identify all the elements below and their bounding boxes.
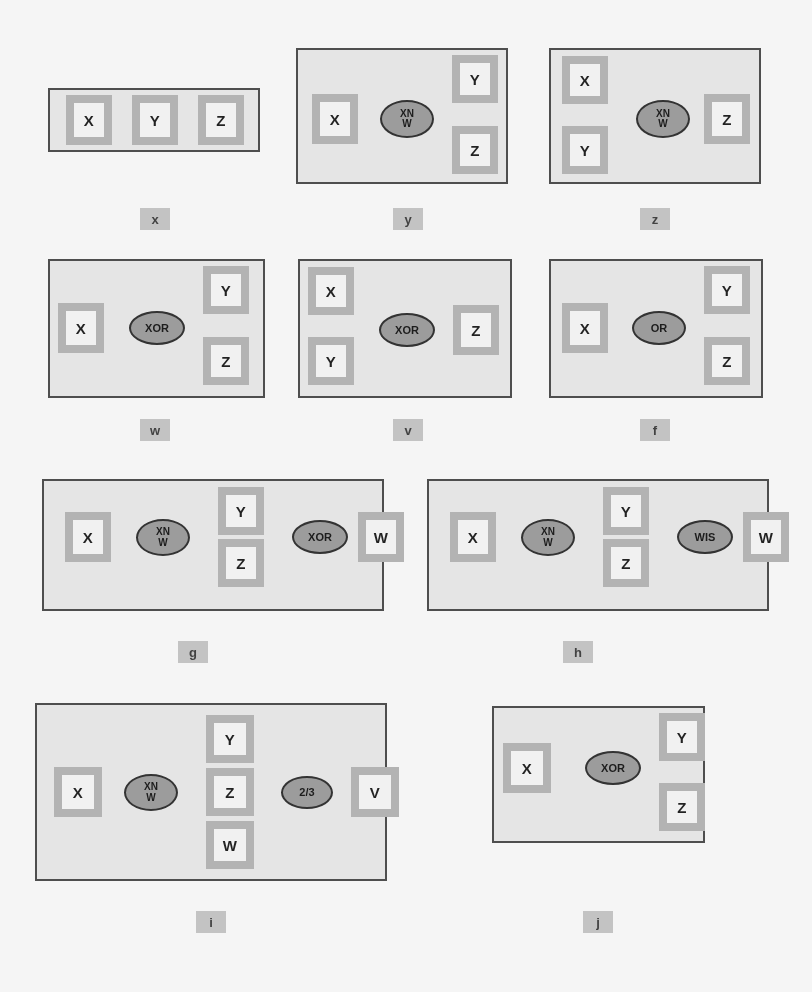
panel-d-node-Z: Z <box>203 337 249 385</box>
panel-j-node-X: X <box>503 743 551 793</box>
node-label: Z <box>461 313 491 347</box>
panel-c-caption: z <box>640 208 670 230</box>
node-label: X <box>73 520 103 554</box>
panel-b-node-Z: Z <box>452 126 498 174</box>
panel-h-node-Z: Z <box>603 539 649 587</box>
node-label: Z <box>226 547 256 579</box>
panel-e-gate-XOR: XOR <box>379 313 435 347</box>
node-label: Y <box>211 274 241 306</box>
panel-i-node-W: W <box>206 821 254 869</box>
panel-d-node-Y: Y <box>203 266 249 314</box>
gate-label: XOR <box>308 532 332 543</box>
node-label: X <box>570 311 600 345</box>
panel-h-gate-XNW: XN W <box>521 519 575 556</box>
node-label: X <box>458 520 488 554</box>
node-label: Y <box>316 345 346 377</box>
panel-i-gate-2-3: 2/3 <box>281 776 333 809</box>
node-label: X <box>511 751 543 785</box>
panel-c-node-X: X <box>562 56 608 104</box>
gate-label: XOR <box>395 325 419 336</box>
node-label: X <box>74 103 104 137</box>
node-label: Z <box>712 345 742 377</box>
panel-e-node-Y: Y <box>308 337 354 385</box>
panel-i-node-Z: Z <box>206 768 254 816</box>
panel-j-node-Z: Z <box>659 783 705 831</box>
panel-f-caption: f <box>640 419 670 441</box>
node-label: V <box>359 775 391 809</box>
node-label: X <box>316 275 346 307</box>
panel-a-node-Y: Y <box>132 95 178 145</box>
panel-b-node-Y: Y <box>452 55 498 103</box>
gate-label: OR <box>651 323 668 334</box>
node-label: W <box>751 520 781 554</box>
node-label: Y <box>460 63 490 95</box>
panel-f-node-X: X <box>562 303 608 353</box>
panel-f-gate-OR: OR <box>632 311 686 345</box>
panel-a-node-X: X <box>66 95 112 145</box>
node-label: Y <box>570 134 600 166</box>
panel-g-node-W: W <box>358 512 404 562</box>
gate-label: XN W <box>144 782 158 803</box>
panel-c-node-Z: Z <box>704 94 750 144</box>
node-label: Y <box>712 274 742 306</box>
panel-i-gate-XNW: XN W <box>124 774 178 811</box>
panel-d-caption: w <box>140 419 170 441</box>
panel-c-gate-XNW: XN W <box>636 100 690 138</box>
panel-b-gate-XNW: XN W <box>380 100 434 138</box>
node-label: Z <box>712 102 742 136</box>
panel-j-node-Y: Y <box>659 713 705 761</box>
node-label: Y <box>214 723 246 755</box>
figure-canvas: X Y Z x X XN W Y Z y X Y XN W Z z <box>0 0 812 992</box>
panel-f-node-Y: Y <box>704 266 750 314</box>
node-label: X <box>570 64 600 96</box>
gate-label: XOR <box>601 763 625 774</box>
panel-e-caption: v <box>393 419 423 441</box>
gate-label: WIS <box>695 532 716 543</box>
panel-b-caption: y <box>393 208 423 230</box>
panel-d-node-X: X <box>58 303 104 353</box>
gate-label: XN W <box>541 527 555 548</box>
node-label: X <box>66 311 96 345</box>
node-label: X <box>320 102 350 136</box>
node-label: Z <box>667 791 697 823</box>
panel-i-node-X: X <box>54 767 102 817</box>
gate-label: 2/3 <box>299 787 314 798</box>
panel-e-node-Z: Z <box>453 305 499 355</box>
node-label: Y <box>667 721 697 753</box>
panel-g-node-X: X <box>65 512 111 562</box>
node-label: Y <box>226 495 256 527</box>
panel-i-node-Y: Y <box>206 715 254 763</box>
panel-d-gate-XOR: XOR <box>129 311 185 345</box>
panel-j-gate-XOR: XOR <box>585 751 641 785</box>
panel-e-node-X: X <box>308 267 354 315</box>
panel-h-caption: h <box>563 641 593 663</box>
gate-label: XN W <box>156 527 170 548</box>
panel-g-node-Y: Y <box>218 487 264 535</box>
node-label: W <box>214 829 246 861</box>
panel-g-gate-XOR: XOR <box>292 520 348 554</box>
panel-i-caption: i <box>196 911 226 933</box>
panel-g-caption: g <box>178 641 208 663</box>
panel-g-gate-XNW: XN W <box>136 519 190 556</box>
node-label: Y <box>140 103 170 137</box>
node-label: Z <box>214 776 246 808</box>
panel-g-node-Z: Z <box>218 539 264 587</box>
node-label: Z <box>211 345 241 377</box>
panel-j-caption: j <box>583 911 613 933</box>
panel-a-caption: x <box>140 208 170 230</box>
panel-b-node-X: X <box>312 94 358 144</box>
gate-label: XOR <box>145 323 169 334</box>
panel-h-node-Y: Y <box>603 487 649 535</box>
panel-h-node-X: X <box>450 512 496 562</box>
node-label: X <box>62 775 94 809</box>
panel-h-gate-WIS: WIS <box>677 520 733 554</box>
panel-h-node-W: W <box>743 512 789 562</box>
panel-f-node-Z: Z <box>704 337 750 385</box>
panel-i-node-V: V <box>351 767 399 817</box>
gate-label: XN W <box>400 109 414 130</box>
node-label: Y <box>611 495 641 527</box>
node-label: Z <box>611 547 641 579</box>
panel-a-node-Z: Z <box>198 95 244 145</box>
gate-label: XN W <box>656 109 670 130</box>
panel-c-node-Y: Y <box>562 126 608 174</box>
